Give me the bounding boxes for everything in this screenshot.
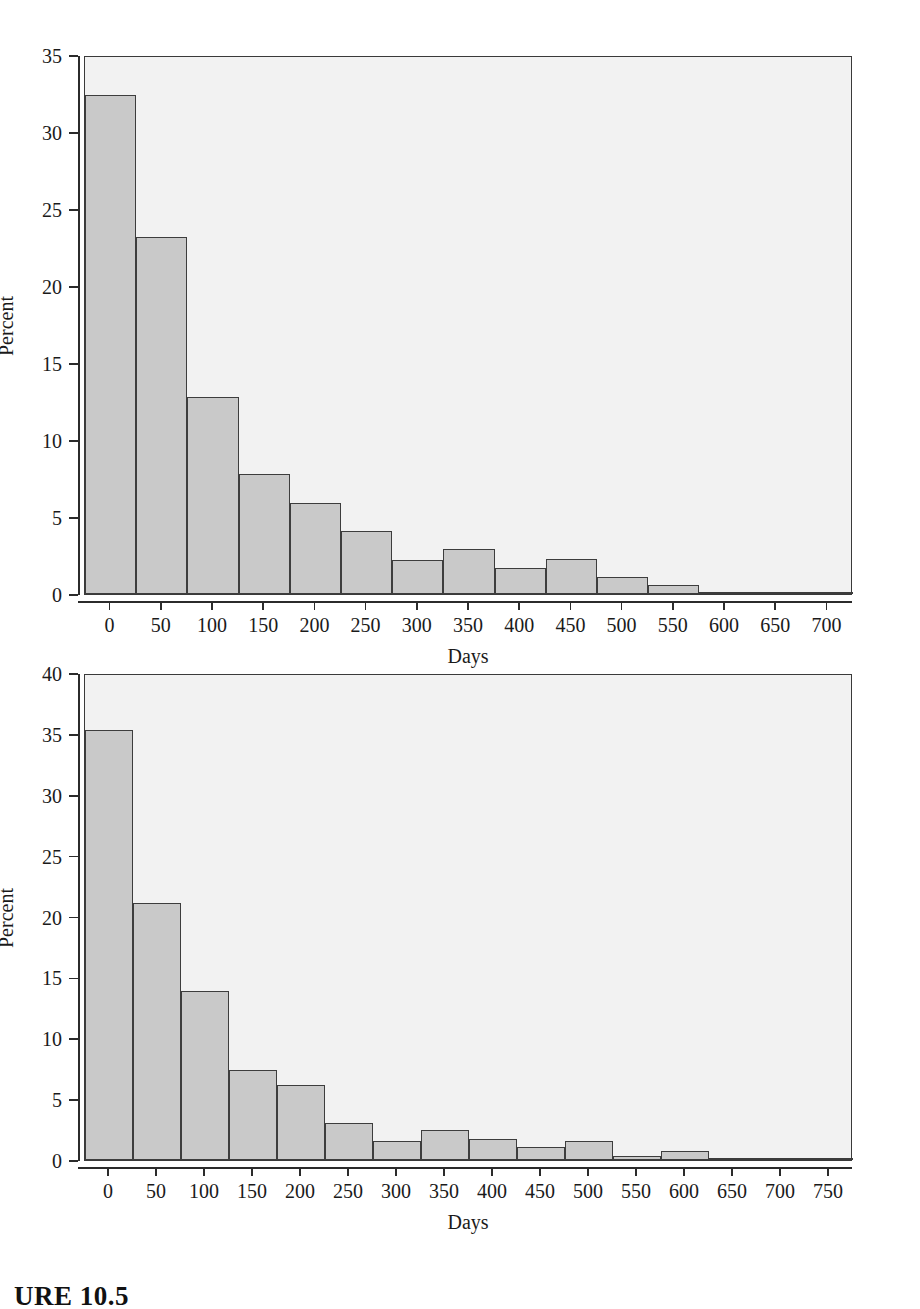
- y-axis-label: 5: [20, 508, 62, 528]
- bar: [181, 991, 229, 1160]
- bar: [757, 1158, 805, 1160]
- y-axis-line: [78, 56, 80, 595]
- x-axis-tick: [443, 1167, 445, 1176]
- x-axis-tick: [723, 601, 725, 610]
- y-axis-tick: [69, 594, 78, 596]
- bar: [229, 1070, 277, 1160]
- bar: [546, 559, 597, 594]
- y-axis-label: 35: [20, 725, 62, 745]
- bar: [277, 1085, 325, 1160]
- x-axis-tick: [587, 1167, 589, 1176]
- bar: [85, 730, 133, 1160]
- y-axis-label: 35: [20, 46, 62, 66]
- x-axis-tick: [491, 1167, 493, 1176]
- bar: [805, 1158, 853, 1160]
- y-axis-label: 30: [20, 123, 62, 143]
- bar: [443, 549, 494, 594]
- bar: [751, 592, 802, 594]
- histogram-bottom: 0510152025303540050100150200250300350400…: [0, 660, 920, 1260]
- y-axis-label: 10: [20, 431, 62, 451]
- x-axis-tick: [107, 1167, 109, 1176]
- y-axis-label: 5: [20, 1090, 62, 1110]
- x-axis-tick: [203, 1167, 205, 1176]
- x-axis-line: [78, 601, 852, 603]
- y-axis-label: 20: [20, 277, 62, 297]
- bar: [699, 592, 750, 594]
- y-axis-line: [78, 674, 80, 1161]
- bar: [85, 95, 136, 594]
- x-axis-tick: [779, 1167, 781, 1176]
- y-axis-tick: [69, 1038, 78, 1040]
- x-axis-tick: [347, 1167, 349, 1176]
- y-axis-tick: [69, 286, 78, 288]
- y-axis-title: Percent: [0, 266, 17, 386]
- x-axis-tick: [299, 1167, 301, 1176]
- x-axis-tick: [416, 601, 418, 610]
- y-axis-label: 15: [20, 354, 62, 374]
- x-axis-label: 700: [796, 615, 856, 635]
- bar-group: [85, 675, 851, 1160]
- y-axis-tick: [69, 1160, 78, 1162]
- y-axis-label: 0: [20, 585, 62, 605]
- y-axis-tick: [69, 517, 78, 519]
- bar: [373, 1141, 421, 1160]
- bar: [802, 592, 853, 594]
- bar: [133, 903, 181, 1160]
- bar: [290, 503, 341, 594]
- x-axis-tick: [827, 1167, 829, 1176]
- x-axis-tick: [774, 601, 776, 610]
- x-axis-tick: [155, 1167, 157, 1176]
- x-axis-label: 750: [798, 1181, 858, 1201]
- x-axis-tick: [109, 601, 111, 610]
- bar: [661, 1151, 709, 1160]
- bar: [709, 1158, 757, 1160]
- y-axis-tick: [69, 978, 78, 980]
- y-axis-label: 40: [20, 664, 62, 684]
- y-axis-label: 25: [20, 200, 62, 220]
- plot-panel: [84, 56, 852, 595]
- bar: [648, 585, 699, 594]
- bar: [187, 397, 238, 594]
- x-axis-tick: [539, 1167, 541, 1176]
- x-axis-line: [78, 1167, 852, 1169]
- x-axis-tick: [395, 1167, 397, 1176]
- x-axis-tick: [262, 601, 264, 610]
- histogram-top: 0510152025303505010015020025030035040045…: [0, 0, 920, 660]
- bar: [325, 1123, 373, 1160]
- x-axis-tick: [621, 601, 623, 610]
- bar: [613, 1156, 661, 1160]
- x-axis-tick: [251, 1167, 253, 1176]
- bar: [517, 1147, 565, 1160]
- bar: [239, 474, 290, 594]
- y-axis-label: 15: [20, 968, 62, 988]
- x-axis-tick: [672, 601, 674, 610]
- y-axis-tick: [69, 55, 78, 57]
- x-axis-tick: [365, 601, 367, 610]
- y-axis-label: 0: [20, 1151, 62, 1171]
- y-axis-tick: [69, 734, 78, 736]
- bar: [597, 577, 648, 594]
- x-axis-title: Days: [368, 1211, 568, 1233]
- plot-panel: [84, 674, 852, 1161]
- bar: [495, 568, 546, 594]
- bar-group: [85, 57, 851, 594]
- y-axis-tick: [69, 917, 78, 919]
- x-axis-tick: [467, 601, 469, 610]
- y-axis-label: 30: [20, 786, 62, 806]
- y-axis-tick: [69, 440, 78, 442]
- bar: [136, 237, 187, 594]
- x-axis-tick: [314, 601, 316, 610]
- x-axis-tick: [211, 601, 213, 610]
- x-axis-tick: [826, 601, 828, 610]
- y-axis-tick: [69, 795, 78, 797]
- bar: [565, 1141, 613, 1160]
- bar: [469, 1139, 517, 1160]
- y-axis-tick: [69, 132, 78, 134]
- x-axis-tick: [683, 1167, 685, 1176]
- y-axis-tick: [69, 856, 78, 858]
- y-axis-tick: [69, 1099, 78, 1101]
- bar: [421, 1130, 469, 1160]
- figure-caption: URE 10.5: [14, 1281, 129, 1309]
- x-axis-tick: [160, 601, 162, 610]
- y-axis-label: 25: [20, 847, 62, 867]
